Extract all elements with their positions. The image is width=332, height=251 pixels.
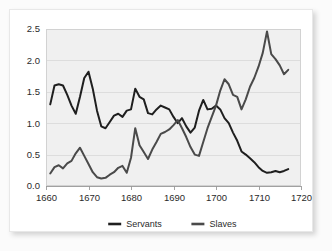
x-tick-label: 1690 — [164, 192, 185, 203]
chart-screenshot: 0.00.51.01.52.02.5 166016701680169017001… — [0, 0, 332, 251]
legend-label-servants: Servants — [126, 219, 162, 229]
x-tick-label: 1660 — [36, 192, 57, 203]
chart-card: 0.00.51.01.52.02.5 166016701680169017001… — [9, 9, 313, 232]
x-tick-label: 1700 — [206, 192, 227, 203]
x-tick-label: 1670 — [79, 192, 100, 203]
y-tick-label: 0.5 — [27, 149, 40, 160]
y-tick-label: 0.0 — [27, 180, 40, 191]
legend-label-slaves: Slaves — [209, 219, 237, 229]
x-tick-label: 1720 — [291, 192, 312, 203]
y-axis-tick-labels: 0.00.51.01.52.02.5 — [27, 23, 40, 191]
line-chart: 0.00.51.01.52.02.5 166016701680169017001… — [10, 10, 314, 233]
x-axis: 1660167016801690170017101720 — [36, 186, 312, 203]
y-tick-label: 1.0 — [27, 118, 40, 129]
y-tick-label: 1.5 — [27, 86, 40, 97]
x-tick-label: 1680 — [121, 192, 142, 203]
chart-legend: ServantsSlaves — [108, 219, 237, 229]
x-tick-label: 1710 — [249, 192, 270, 203]
chart-container: 0.00.51.01.52.02.5 166016701680169017001… — [10, 10, 314, 233]
y-tick-label: 2.0 — [27, 55, 40, 66]
y-tick-label: 2.5 — [27, 23, 40, 34]
